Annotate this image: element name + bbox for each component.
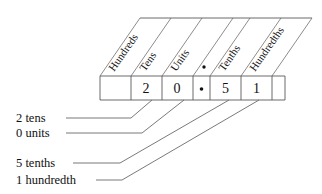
digit-cell-tenths: 5: [222, 81, 229, 96]
leader-lines: [66, 100, 259, 180]
digit-row: 2 0 5 1: [100, 76, 285, 100]
annotation-label-tenths: 5 tenths: [16, 156, 55, 170]
header-label-units: Units: [168, 47, 192, 73]
header-labels: Hundreds Tens Units Tenths Hundredths: [106, 24, 286, 73]
annotation-label-tens: 2 tens: [16, 111, 46, 125]
annotation-label-hundredths: 1 hundredth: [16, 173, 77, 187]
annotation-label-units: 0 units: [16, 126, 50, 140]
leader-line-units: [66, 100, 184, 133]
header-label-hundredths: Hundredths: [247, 24, 286, 73]
leader-line-tens: [66, 100, 152, 118]
annotation-labels: 2 tens 0 units 5 tenths 1 hundredth: [16, 111, 77, 187]
header-label-decimal-point: [202, 65, 205, 68]
leader-line-hundredths: [96, 100, 259, 180]
header-label-tens: Tens: [137, 49, 159, 73]
header-label-hundreds: Hundreds: [106, 31, 140, 73]
digit-cell-units: 0: [174, 81, 181, 96]
place-value-diagram: Hundreds Tens Units Tenths Hundredths 2 …: [0, 0, 322, 194]
diagram-canvas: Hundreds Tens Units Tenths Hundredths 2 …: [0, 0, 322, 194]
digit-cell-decimal-point: [200, 87, 204, 91]
digit-cell-tens: 2: [143, 81, 150, 96]
digit-cell-hundredths: 1: [253, 81, 260, 96]
header-label-tenths: Tenths: [216, 42, 243, 73]
